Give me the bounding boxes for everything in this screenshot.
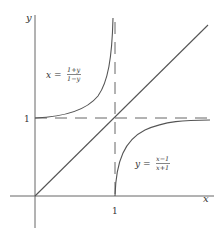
svg-text:x+1: x+1 [156, 164, 169, 172]
upper-curve-formula: x = 1+y 1−y [46, 66, 81, 83]
svg-text:1+y: 1+y [67, 66, 81, 74]
diagonal-line-y-equals-x [35, 25, 208, 196]
svg-text:y =: y = [134, 159, 151, 169]
svg-text:x−1: x−1 [156, 155, 169, 163]
y-tick-1: 1 [24, 114, 30, 124]
lower-curve-formula: y = x−1 x+1 [134, 155, 170, 172]
svg-text:x =: x = [46, 70, 61, 80]
x-tick-1: 1 [112, 206, 118, 216]
svg-text:1−y: 1−y [67, 75, 81, 83]
x-axis-label: x [203, 193, 209, 204]
y-axis-label: y [25, 12, 32, 23]
function-inverse-diagram: y x 1 1 x = 1+y 1−y y = x−1 x+1 [0, 0, 223, 236]
